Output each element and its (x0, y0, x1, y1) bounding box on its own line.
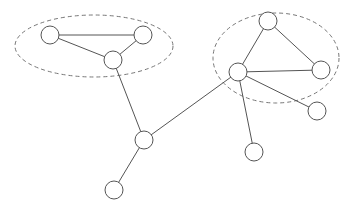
edge-layer (50, 21, 321, 190)
node-n8 (312, 61, 330, 79)
node-n6 (259, 12, 277, 30)
edge-n7-n8 (238, 70, 321, 72)
edge-n7-n10 (238, 72, 254, 152)
network-diagram (0, 0, 348, 209)
node-n10 (245, 143, 263, 161)
edge-n6-n8 (268, 21, 321, 70)
cluster-right (213, 13, 339, 103)
cluster-layer (15, 13, 339, 103)
node-n7 (229, 63, 247, 81)
node-n3 (104, 51, 122, 69)
node-n1 (41, 26, 59, 44)
edge-n3-n4 (113, 60, 144, 140)
node-layer (41, 12, 330, 199)
edge-n1-n3 (50, 35, 113, 60)
edge-n7-n9 (238, 72, 317, 111)
node-n5 (105, 181, 123, 199)
node-n2 (134, 26, 152, 44)
edge-n4-n7 (144, 72, 238, 140)
node-n9 (308, 102, 326, 120)
node-n4 (135, 131, 153, 149)
cluster-left (15, 15, 173, 77)
